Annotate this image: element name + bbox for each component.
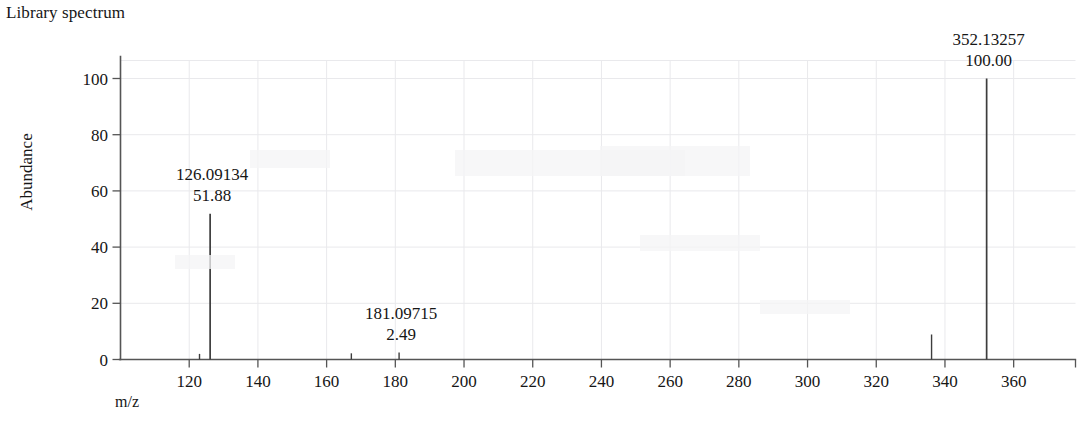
peak-intensity-value: 2.49 bbox=[365, 324, 437, 345]
scan-smudge bbox=[250, 150, 330, 168]
axis-lines bbox=[120, 57, 1076, 360]
x-tick-label: 340 bbox=[932, 372, 958, 391]
x-tick-label: 200 bbox=[451, 372, 477, 391]
peak-annotation: 181.097152.49 bbox=[365, 303, 437, 345]
y-tick-label: 20 bbox=[52, 294, 108, 313]
x-tick-label: 180 bbox=[383, 372, 409, 391]
scan-smudge bbox=[640, 235, 760, 251]
y-tick-label: 0 bbox=[52, 350, 108, 369]
spectrum-canvas bbox=[0, 0, 1080, 423]
x-tick-label: 320 bbox=[864, 372, 890, 391]
axis-ticks bbox=[113, 79, 1076, 368]
x-tick-label: 240 bbox=[589, 372, 615, 391]
y-tick-label: 80 bbox=[52, 125, 108, 144]
y-tick-label: 60 bbox=[52, 181, 108, 200]
peak-intensity-value: 51.88 bbox=[176, 185, 248, 206]
scan-smudge bbox=[175, 255, 235, 269]
peak-annotation: 126.0913451.88 bbox=[176, 164, 248, 206]
peak-annotation: 352.13257100.00 bbox=[953, 29, 1025, 71]
x-tick-label: 120 bbox=[176, 372, 202, 391]
x-tick-label: 280 bbox=[726, 372, 752, 391]
peak-bars bbox=[200, 79, 987, 360]
peak-mz-value: 126.09134 bbox=[176, 164, 248, 185]
y-tick-label: 40 bbox=[52, 238, 108, 257]
x-tick-label: 260 bbox=[657, 372, 683, 391]
peak-mz-value: 181.09715 bbox=[365, 303, 437, 324]
peak-mz-value: 352.13257 bbox=[953, 29, 1025, 50]
mass-spectrum-figure: Library spectrum Abundance m/z 020406080… bbox=[0, 0, 1080, 423]
scan-artifacts bbox=[175, 146, 850, 314]
peak-intensity-value: 100.00 bbox=[953, 50, 1025, 71]
x-tick-label: 360 bbox=[1001, 372, 1027, 391]
x-tick-label: 140 bbox=[245, 372, 271, 391]
scan-smudge bbox=[760, 300, 850, 314]
x-tick-label: 160 bbox=[314, 372, 340, 391]
x-tick-label: 220 bbox=[520, 372, 546, 391]
plot-area bbox=[0, 0, 1080, 423]
scan-smudge bbox=[600, 146, 750, 176]
y-tick-label: 100 bbox=[52, 69, 108, 88]
gridlines bbox=[121, 61, 1076, 360]
x-tick-label: 300 bbox=[795, 372, 821, 391]
